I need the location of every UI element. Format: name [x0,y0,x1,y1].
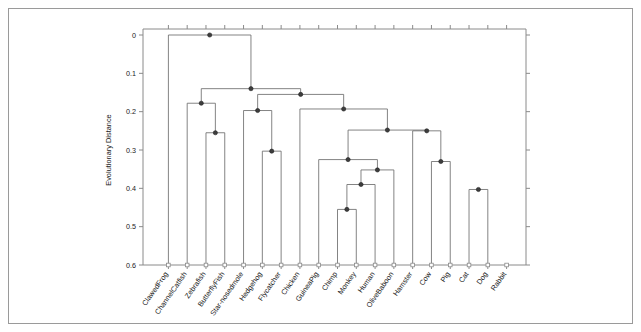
leaf-marker [486,263,490,267]
y-tick-label: 0.5 [126,222,136,231]
figure-frame: 00.10.20.30.40.50.6 Evolutionary Distanc… [8,8,633,324]
dendrogram-link [168,35,251,265]
dendrogram-link [300,109,387,265]
y-tick-label: 0.6 [126,261,136,270]
leaf-marker [411,263,415,267]
leaf-label: Cow [417,269,433,287]
leaf-marker [392,263,396,267]
leaf-marker [242,263,246,267]
dendrogram-link [258,94,344,110]
dendrogram-link [469,189,488,265]
dendrogram-link [262,151,281,265]
dendrogram-link [431,162,450,266]
leaf-marker [185,263,189,267]
merge-node-marker [299,92,303,96]
merge-node-marker [375,168,379,172]
y-tick-label: 0.1 [126,69,136,78]
dendrogram-link [347,185,375,266]
merge-node-marker [249,87,253,91]
y-tick-label: 0.3 [126,146,136,155]
merge-node-marker [342,107,346,111]
leaf-label: Monkey [336,270,358,296]
leaf-marker [430,263,434,267]
merge-node-marker [425,129,429,133]
merge-node-marker [385,128,389,132]
dendrogram-link [244,111,272,265]
leaf-marker [167,263,171,267]
leaf-labels: ClawedFrogChannelCatfishZebrafishButterf… [140,269,508,317]
y-axis-title-text: Evolutionary Distance [104,114,113,185]
leaf-marker [373,263,377,267]
dendrogram-link [187,103,215,265]
merge-node-marker [346,157,350,161]
leaf-marker [204,263,208,267]
leaf-label: Hamster [391,270,415,298]
leaf-label: Dog [474,270,489,286]
merge-node-marker [270,149,274,153]
leaf-marker [336,263,340,267]
axes-group [139,25,530,269]
merge-node-marker [359,182,363,186]
dendrogram-nodes [199,33,480,212]
dendrogram-link [413,131,441,265]
leaf-marker [448,263,452,267]
y-tick-label: 0.2 [126,107,136,116]
leaf-label: Rabbit [489,270,508,292]
dendrogram-plot: 00.10.20.30.40.50.6 Evolutionary Distanc… [9,9,634,325]
dendrogram-links [168,35,487,265]
y-axis-title: Evolutionary Distance [104,114,113,185]
merge-node-marker [213,131,217,135]
merge-node-marker [476,187,480,191]
merge-node-marker [439,159,443,163]
leaf-marker [467,263,471,267]
leaf-label: Cat [457,270,471,284]
leaf-marker [223,263,227,267]
leaf-marker [354,263,358,267]
dendrogram-link [338,209,357,265]
leaf-marker [261,263,265,267]
leaf-label: Pig [438,270,451,284]
leaf-marker [279,263,283,267]
leaf-marker [298,263,302,267]
y-tick-label: 0 [132,31,136,40]
dendrogram-link [206,133,225,265]
merge-node-marker [208,33,212,37]
merge-node-marker [256,108,260,112]
y-tick-label: 0.4 [126,184,136,193]
merge-node-marker [199,101,203,105]
dendrogram-link [348,130,427,160]
leaf-marker [317,263,321,267]
y-axis-tick-labels: 00.10.20.30.40.50.6 [126,31,136,270]
leaf-marker [505,263,509,267]
merge-node-marker [345,207,349,211]
dendrogram-link [319,160,378,265]
